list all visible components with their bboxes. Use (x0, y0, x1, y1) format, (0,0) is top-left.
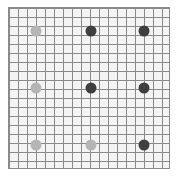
dark-dot (139, 140, 150, 151)
dark-dot (139, 83, 150, 94)
light-dot (31, 83, 42, 94)
dark-dot (139, 26, 150, 37)
light-dot (86, 140, 97, 151)
dark-dot (86, 26, 97, 37)
dark-dot (86, 83, 97, 94)
light-dot (31, 140, 42, 151)
light-dot (31, 26, 42, 37)
